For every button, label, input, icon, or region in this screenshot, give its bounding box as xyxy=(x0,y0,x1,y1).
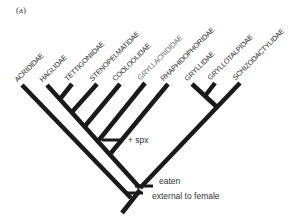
branch-gryllacrididae xyxy=(99,83,145,140)
annotation-external-to-female: external to female xyxy=(152,191,220,201)
branch-stenopelmatidae xyxy=(72,84,97,112)
cladogram-tree xyxy=(0,0,303,220)
phylogeny-figure: (a) xyxy=(0,0,303,220)
annotation-spx: + spx xyxy=(128,135,149,145)
branch-tettigoniidae xyxy=(60,84,72,99)
branch-gryllotalpidae xyxy=(205,83,215,96)
annotation-eaten: eaten xyxy=(159,176,180,186)
